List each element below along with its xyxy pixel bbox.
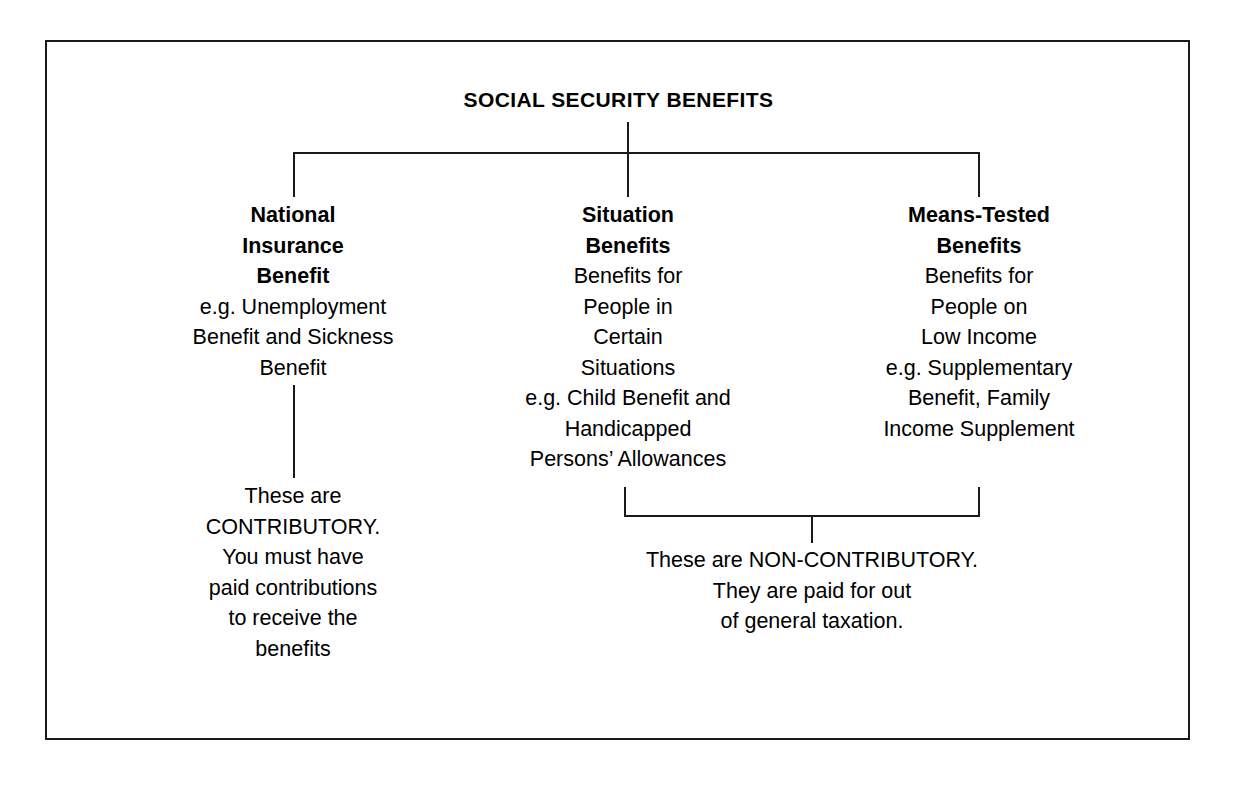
column-body-line: People in: [450, 292, 806, 323]
column-situation-benefits: Situation Benefits Benefits for People i…: [450, 200, 806, 475]
column-body-line: Low Income: [796, 322, 1162, 353]
note-line: These are NON-CONTRIBUTORY.: [565, 545, 1059, 576]
column-body-line: Certain: [450, 322, 806, 353]
column-body-line: e.g. Child Benefit and: [450, 383, 806, 414]
note-line: benefits: [128, 634, 458, 665]
column-body-line: Income Supplement: [796, 414, 1162, 445]
connector-bracket-left-riser: [624, 487, 626, 517]
connector-bracket-center-stem: [811, 515, 813, 543]
column-means-tested-benefits: Means-Tested Benefits Benefits for Peopl…: [796, 200, 1162, 444]
connector-bracket-right-riser: [978, 487, 980, 517]
note-line: of general taxation.: [565, 606, 1059, 637]
column-body-line: People on: [796, 292, 1162, 323]
note-line: CONTRIBUTORY.: [128, 512, 458, 543]
column-heading-line: Benefits: [796, 231, 1162, 262]
diagram-title: SOCIAL SECURITY BENEFITS: [0, 88, 1237, 112]
connector-drop-situation: [627, 152, 629, 197]
column-body-line: Benefits for: [450, 261, 806, 292]
connector-horizontal-bus: [293, 152, 980, 154]
column-body-line: Benefits for: [796, 261, 1162, 292]
column-body-line: Benefit and Sickness: [128, 322, 458, 353]
column-heading-line: Benefits: [450, 231, 806, 262]
column-heading-line: Benefit: [128, 261, 458, 292]
column-national-insurance-benefit: National Insurance Benefit e.g. Unemploy…: [128, 200, 458, 383]
note-line: These are: [128, 481, 458, 512]
column-body-line: Benefit, Family: [796, 383, 1162, 414]
note-line: They are paid for out: [565, 576, 1059, 607]
note-non-contributory: These are NON-CONTRIBUTORY. They are pai…: [565, 545, 1059, 637]
diagram-root: SOCIAL SECURITY BENEFITS National Insura…: [0, 0, 1237, 785]
column-body-line: e.g. Unemployment: [128, 292, 458, 323]
column-heading-line: Insurance: [128, 231, 458, 262]
connector-national-insurance-to-contributory-note: [293, 385, 295, 478]
connector-drop-national-insurance: [293, 152, 295, 197]
column-heading-line: National: [128, 200, 458, 231]
connector-bracket-horizontal: [624, 515, 980, 517]
connector-title-stem: [627, 122, 629, 154]
column-body-line: Situations: [450, 353, 806, 384]
column-body-line: Benefit: [128, 353, 458, 384]
column-heading-line: Means-Tested: [796, 200, 1162, 231]
connector-drop-means-tested: [978, 152, 980, 197]
column-body-line: e.g. Supplementary: [796, 353, 1162, 384]
note-contributory: These are CONTRIBUTORY. You must have pa…: [128, 481, 458, 664]
note-line: paid contributions: [128, 573, 458, 604]
column-body-line: Handicapped: [450, 414, 806, 445]
column-body-line: Persons’ Allowances: [450, 444, 806, 475]
note-line: to receive the: [128, 603, 458, 634]
note-line: You must have: [128, 542, 458, 573]
column-heading-line: Situation: [450, 200, 806, 231]
